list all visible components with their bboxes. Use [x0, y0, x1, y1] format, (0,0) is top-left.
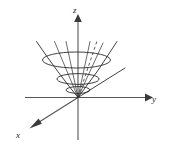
x-axis-line — [36, 98, 78, 125]
generator-hidden-dashed — [78, 40, 98, 98]
y-axis-label: y — [152, 95, 156, 104]
x-axis-label: x — [16, 131, 20, 140]
x-axis-arrowhead — [30, 119, 42, 129]
paraboloid-silhouette — [37, 42, 118, 98]
axis-group-x — [30, 98, 79, 129]
z-axis-arrowhead — [74, 14, 82, 22]
z-axis-label: z — [73, 6, 77, 15]
axis-group-z — [74, 14, 82, 140]
paraboloid-generators — [55, 42, 104, 98]
generator-left-mid — [66, 42, 78, 98]
axis-group-y — [25, 94, 153, 102]
paraboloid-canvas — [0, 0, 177, 152]
paraboloid-figure: z y x — [0, 0, 177, 152]
cross-section-top — [43, 52, 111, 68]
paraboloid-cross-sections — [43, 52, 111, 93]
